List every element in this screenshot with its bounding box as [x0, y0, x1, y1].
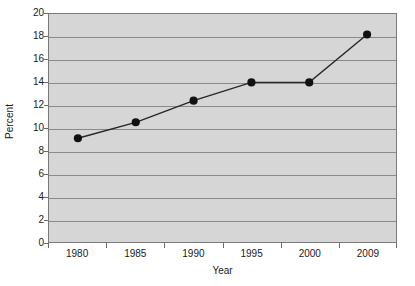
x-tick-mark [339, 243, 340, 248]
data-point-marker [132, 118, 140, 126]
y-axis-tick-labels: 02468101214161820 [18, 13, 44, 243]
data-point-marker [190, 97, 198, 105]
line-chart-figure: Percent 02468101214161820 19801985199019… [0, 0, 415, 286]
x-tick-mark [281, 243, 282, 248]
x-tick-mark [164, 243, 165, 248]
data-point-marker [305, 78, 313, 86]
x-tick-label: 1995 [240, 249, 262, 259]
y-tick-label: 20 [18, 8, 44, 18]
x-tick-label: 1990 [182, 249, 204, 259]
x-tick-mark [106, 243, 107, 248]
y-tick-label: 8 [18, 146, 44, 156]
y-tick-mark [44, 220, 48, 221]
y-tick-label: 16 [18, 54, 44, 64]
y-tick-label: 2 [18, 215, 44, 225]
x-tick-mark [223, 243, 224, 248]
x-tick-label: 1980 [66, 249, 88, 259]
x-tick-label: 1985 [124, 249, 146, 259]
y-tick-mark [44, 36, 48, 37]
y-tick-label: 6 [18, 169, 44, 179]
x-axis-tick-labels: 198019851990199520002009 [48, 249, 397, 263]
y-tick-label: 0 [18, 238, 44, 248]
series-line-chart [49, 14, 396, 242]
y-tick-label: 14 [18, 77, 44, 87]
x-tick-label: 2009 [357, 249, 379, 259]
y-tick-mark [44, 128, 48, 129]
y-tick-mark [44, 105, 48, 106]
y-tick-mark [44, 197, 48, 198]
y-axis-title: Percent [0, 0, 20, 243]
x-tick-mark [48, 243, 49, 248]
series-markers [74, 30, 371, 142]
data-point-marker [247, 78, 255, 86]
y-axis-title-label: Percent [5, 104, 16, 139]
series-polyline [78, 35, 367, 139]
y-tick-mark [44, 59, 48, 60]
y-tick-label: 10 [18, 123, 44, 133]
x-tick-label: 2000 [299, 249, 321, 259]
data-point-marker [363, 30, 371, 38]
x-axis-title: Year [48, 266, 397, 276]
y-tick-mark [44, 174, 48, 175]
y-tick-mark [44, 13, 48, 14]
x-tick-mark [396, 243, 397, 248]
y-tick-label: 18 [18, 31, 44, 41]
y-tick-mark [44, 243, 48, 244]
y-tick-label: 4 [18, 192, 44, 202]
y-tick-label: 12 [18, 100, 44, 110]
x-axis-tick-marks [48, 243, 397, 248]
data-point-marker [74, 134, 82, 142]
plot-area [48, 13, 397, 243]
y-tick-mark [44, 82, 48, 83]
y-tick-mark [44, 151, 48, 152]
